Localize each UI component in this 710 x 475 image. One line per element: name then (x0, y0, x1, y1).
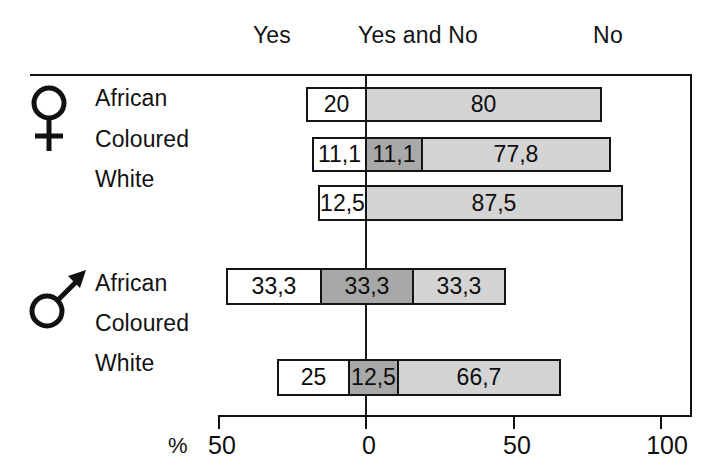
column-header-yes: Yes (253, 22, 291, 49)
x-axis-line (218, 415, 692, 417)
bar-value-label: 11,1 (318, 141, 361, 168)
female-category-coloured: Coloured (95, 126, 189, 153)
female-category-white: White (95, 166, 154, 193)
bar-value-label: 77,8 (494, 141, 539, 168)
bar-female-coloured-no: 77,8 (421, 137, 611, 172)
bar-male-african-yes-and-no: 33,3 (320, 268, 414, 305)
bar-male-white-yes-and-no: 12,5 (348, 359, 399, 396)
bar-value-label: 66,7 (457, 364, 502, 391)
bar-value-label: 20 (324, 91, 350, 118)
male-category-coloured: Coloured (95, 310, 189, 337)
x-tick-minus50 (218, 415, 220, 429)
axis-unit-label: % (168, 433, 188, 459)
bar-female-coloured-yes-and-no: 11,1 (365, 137, 423, 172)
mars-symbol (24, 262, 96, 334)
plot-right-border (690, 74, 692, 417)
bar-male-white-no: 66,7 (397, 359, 561, 396)
bar-male-white-yes: 25 (277, 359, 350, 396)
bar-male-african-yes: 33,3 (226, 268, 322, 305)
bar-value-label: 12,5 (320, 190, 365, 217)
bar-value-label: 33,3 (437, 273, 482, 300)
bar-female-african-no: 80 (365, 87, 602, 122)
diverging-bar-chart: Yes Yes and No No 50 0 50 100 % African … (0, 0, 710, 475)
x-ticklabel-0: 0 (362, 431, 376, 460)
bar-value-label: 11,1 (372, 141, 415, 168)
x-ticklabel-minus50: 50 (208, 431, 236, 460)
bar-value-label: 33,3 (252, 273, 297, 300)
column-header-no: No (593, 22, 623, 49)
female-category-african: African (95, 85, 167, 112)
x-tick-0 (365, 415, 367, 429)
bar-value-label: 12,5 (351, 364, 396, 391)
bar-female-white-yes: 12,5 (318, 185, 367, 221)
venus-symbol (26, 83, 72, 155)
male-category-african: African (95, 270, 167, 297)
bar-male-african-no: 33,3 (412, 268, 506, 305)
bar-value-label: 80 (471, 91, 497, 118)
bar-value-label: 33,3 (345, 273, 390, 300)
male-category-white: White (95, 350, 154, 377)
bar-female-coloured-yes: 11,1 (312, 137, 367, 172)
x-ticklabel-50: 50 (503, 431, 531, 460)
bar-female-white-no: 87,5 (365, 185, 623, 221)
x-ticklabel-100: 100 (646, 431, 688, 460)
bar-female-african-yes: 20 (306, 87, 367, 122)
x-tick-100 (660, 415, 662, 429)
column-header-yes-and-no: Yes and No (358, 22, 478, 49)
plot-top-border (30, 74, 692, 76)
bar-value-label: 25 (301, 364, 327, 391)
bar-value-label: 87,5 (472, 190, 517, 217)
x-tick-50 (513, 415, 515, 429)
